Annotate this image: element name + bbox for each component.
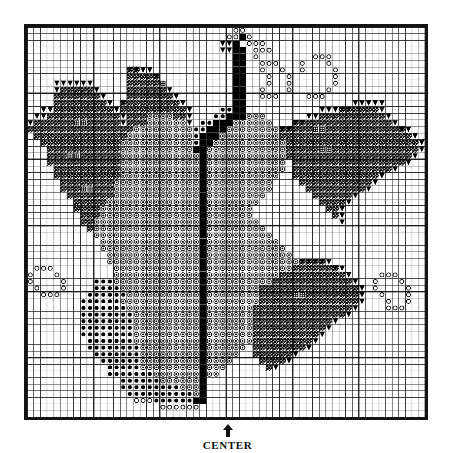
center-label: CENTER: [203, 439, 252, 451]
needlework-chart-grid[interactable]: [24, 24, 428, 420]
chart-canvas[interactable]: [27, 27, 425, 417]
chart-page: CENTER Grape Cluster and Leaves Chart: [0, 0, 451, 453]
up-arrow-icon: [221, 424, 235, 437]
center-marker: CENTER: [0, 424, 451, 451]
chart-title: Grape Cluster and Leaves Chart: [0, 0, 1, 1]
